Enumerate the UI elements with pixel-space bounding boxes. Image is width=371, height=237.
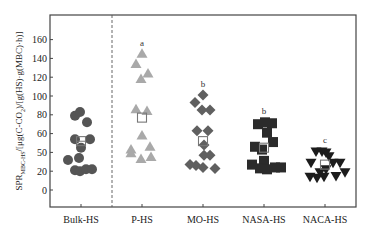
circle-marker: [85, 134, 95, 144]
significance-letter: a: [140, 38, 144, 48]
diamond-marker: [192, 125, 203, 136]
series-nasa-hs: b: [247, 106, 286, 174]
triangle-up-marker: [137, 130, 148, 140]
series-naca-hs: c: [305, 135, 351, 183]
triangle-up-marker: [131, 104, 142, 114]
circle-marker: [74, 153, 84, 163]
triangle-down-marker: [340, 168, 351, 178]
diamond-marker: [190, 97, 201, 108]
triangle-up-marker: [143, 68, 154, 78]
y-tick-label: 120: [32, 72, 47, 83]
x-category-label: NACA-HS: [303, 214, 347, 225]
square-marker: [257, 145, 267, 155]
y-tick-label: 100: [32, 91, 47, 102]
diamond-marker: [205, 105, 216, 116]
significance-letter: b: [262, 106, 267, 116]
y-axis-label: SPRMBC-HS/[μg(C-CO2)/[g(HS)·g(MBC)·h)]: [14, 32, 26, 191]
y-tick-label: 140: [32, 53, 47, 64]
triangle-down-marker: [331, 172, 342, 182]
y-tick-label: 60: [37, 128, 47, 139]
circle-marker: [87, 164, 97, 174]
y-tick-label: 80: [37, 109, 47, 120]
x-category-label: Bulk-HS: [63, 214, 99, 225]
series-p-hs: a: [126, 38, 157, 163]
circle-marker: [70, 134, 80, 144]
triangle-down-marker: [306, 159, 317, 169]
diamond-marker: [198, 90, 209, 101]
series-mo-hs: b: [185, 79, 221, 174]
triangle-up-marker: [136, 153, 147, 163]
data-points: abbc: [63, 38, 351, 184]
y-tick-label: 50: [37, 147, 47, 158]
scatter-chart: 020506080100120140160 Bulk-HSP-HSMO-HSNA…: [0, 0, 371, 237]
y-label-part: )/[g(HS)·g(MBC)·h)]: [14, 32, 24, 109]
circle-marker: [75, 107, 85, 117]
diamond-marker: [205, 150, 216, 161]
triangle-up-marker: [146, 152, 157, 162]
significance-letter: b: [201, 79, 206, 89]
square-marker: [268, 137, 278, 147]
x-category-label: NASA-HS: [242, 214, 285, 225]
triangle-up-marker: [137, 48, 148, 58]
diamond-marker: [203, 125, 214, 136]
y-tick-label: 0: [42, 185, 47, 196]
y-tick-label: 20: [37, 166, 47, 177]
square-marker: [262, 128, 272, 138]
circle-marker: [63, 155, 73, 165]
significance-letter: c: [323, 135, 327, 145]
square-marker: [276, 162, 286, 172]
y-label-part: /[μg(C-CO: [14, 112, 24, 152]
x-category-label: P-HS: [131, 214, 153, 225]
y-tick-label: 160: [32, 34, 47, 45]
diamond-marker: [210, 163, 221, 174]
y-label-part: SPR: [14, 174, 24, 190]
triangle-up-marker: [131, 59, 142, 69]
square-marker: [267, 118, 277, 128]
triangle-up-marker: [145, 141, 156, 151]
circle-marker: [82, 117, 92, 127]
circle-marker: [76, 143, 86, 153]
series-bulk-hs: [63, 107, 97, 176]
y-label-part: MBC-HS: [20, 151, 26, 174]
x-category-label: MO-HS: [187, 214, 219, 225]
triangle-down-marker: [335, 159, 346, 169]
